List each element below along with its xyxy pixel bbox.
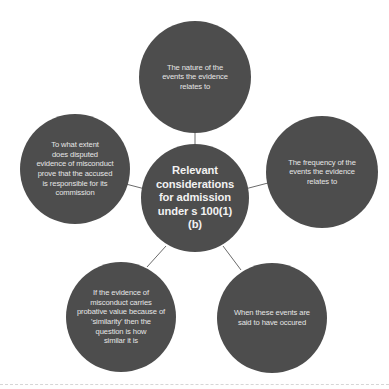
- node-label-line: is responsible for its: [36, 179, 113, 189]
- connector-bottom-left: [147, 246, 166, 267]
- center-label-line: under s 100(1): [156, 205, 234, 219]
- node-label: The frequency of the events the evidence…: [288, 158, 356, 187]
- node-label-line: When these events are: [234, 308, 310, 318]
- node-label-line: does disputed: [36, 150, 113, 160]
- node-label-line: prove that the accused: [36, 169, 113, 179]
- node-label-line: The frequency of the: [288, 158, 356, 168]
- node-label-line: relates to: [162, 82, 228, 92]
- node-label-line: relates to: [288, 177, 356, 187]
- bottom-divider: [0, 384, 389, 385]
- node-label: The nature of the events the evidence re…: [162, 63, 228, 92]
- node-when-events-occurred: When these events are said to have occur…: [217, 263, 327, 373]
- node-label-line: 'similarity' then the: [77, 317, 165, 327]
- node-label-line: said to have occured: [234, 318, 310, 328]
- node-label-line: similar it is: [77, 336, 165, 346]
- node-label-line: To what extent: [36, 140, 113, 150]
- connector-right: [245, 183, 268, 189]
- center-node-relevant-considerations: Relevant considerations for admission un…: [141, 144, 249, 252]
- node-label-line: The nature of the: [162, 63, 228, 73]
- node-label-line: question is how: [77, 327, 165, 337]
- center-label-line: considerations: [156, 178, 234, 192]
- node-label-line: commission: [36, 188, 113, 198]
- node-label-line: If the evidence of: [77, 288, 165, 298]
- node-label-line: evidence of misconduct: [36, 159, 113, 169]
- node-frequency-of-events: The frequency of the events the evidence…: [266, 116, 378, 228]
- node-label: When these events are said to have occur…: [234, 308, 310, 327]
- center-label-line: (b): [156, 218, 234, 232]
- node-nature-of-events: The nature of the events the evidence re…: [139, 21, 251, 133]
- node-similarity-question: If the evidence of misconduct carries pr…: [66, 262, 176, 372]
- center-label-line: Relevant: [156, 164, 234, 178]
- mind-map-diagram: The nature of the events the evidence re…: [0, 0, 389, 389]
- node-label-line: misconduct carries: [77, 298, 165, 308]
- node-label-line: events the evidence: [162, 72, 228, 82]
- center-label-line: for admission: [156, 191, 234, 205]
- center-node-label: Relevant considerations for admission un…: [156, 164, 234, 232]
- node-label-line: events the evidence: [288, 167, 356, 177]
- connector-bottom-right: [223, 246, 241, 270]
- node-label: To what extent does disputed evidence of…: [36, 140, 113, 198]
- node-disputed-misconduct: To what extent does disputed evidence of…: [20, 114, 130, 224]
- node-label: If the evidence of misconduct carries pr…: [77, 288, 165, 346]
- node-label-line: probative value because of: [77, 307, 165, 317]
